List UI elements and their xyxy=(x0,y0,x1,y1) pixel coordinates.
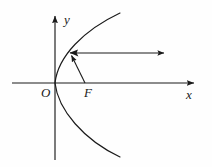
figure-canvas xyxy=(0,0,212,167)
origin-label: O xyxy=(41,86,50,99)
focus-label: F xyxy=(84,86,92,99)
focal-ray xyxy=(72,56,86,84)
x-axis-label: x xyxy=(186,88,192,101)
parabola-reflection-figure: y x O F xyxy=(0,0,212,167)
y-axis-label: y xyxy=(64,13,70,26)
